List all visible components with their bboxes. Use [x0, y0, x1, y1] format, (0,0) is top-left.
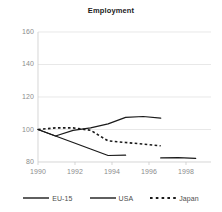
ytick-label-100: 100 — [10, 126, 34, 133]
ytick-label-140: 140 — [10, 60, 34, 67]
legend-label-eu-15: EU-15 — [52, 195, 72, 202]
legend-swatch-dotted-icon — [150, 194, 176, 202]
legend-label-japan: Japan — [179, 195, 199, 202]
x-tick-marks — [38, 162, 186, 165]
xtick-label-1990: 1990 — [21, 168, 55, 175]
legend-item-usa[interactable]: USA — [90, 194, 134, 202]
gridlines — [38, 32, 211, 130]
legend-label-usa: USA — [119, 195, 134, 202]
legend-item-japan[interactable]: Japan — [150, 194, 199, 202]
legend-swatch-solid-icon — [90, 194, 116, 202]
ytick-label-120: 120 — [10, 93, 34, 100]
xtick-label-1996: 1996 — [132, 168, 166, 175]
xtick-label-1992: 1992 — [58, 168, 92, 175]
legend-item-eu-15[interactable]: EU-15 — [23, 194, 72, 202]
ytick-label-80: 80 — [10, 158, 34, 165]
series-line-eu-15 — [38, 117, 161, 137]
series-line-usa-segment-2 — [161, 158, 196, 159]
chart-legend: EU-15 USA Japan — [0, 191, 222, 205]
xtick-label-1998: 1998 — [169, 168, 203, 175]
ytick-label-160: 160 — [10, 28, 34, 35]
legend-swatch-solid-icon — [23, 194, 49, 202]
series-line-usa — [38, 130, 126, 156]
xtick-label-1994: 1994 — [95, 168, 129, 175]
employment-chart: Employment 160 140 120 1 — [0, 0, 222, 212]
